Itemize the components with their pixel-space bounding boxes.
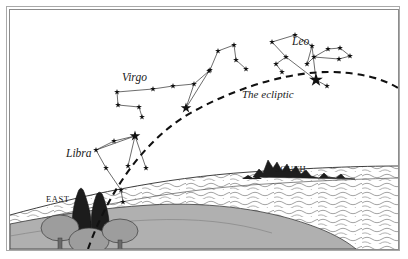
illustration-canvas: Virgo Leo Libra The ecliptic EAST SOUTH — [0, 0, 408, 259]
constellation-label-libra: Libra — [66, 148, 92, 160]
sky-illustration: Virgo Leo Libra The ecliptic EAST SOUTH — [10, 10, 398, 249]
constellation-label-leo: Leo — [292, 36, 309, 48]
ecliptic-label: The ecliptic — [242, 89, 294, 100]
compass-label-east: EAST — [46, 195, 70, 204]
constellation-label-virgo: Virgo — [122, 72, 147, 84]
sky-diagram-svg — [10, 10, 398, 249]
compass-label-south: SOUTH — [275, 165, 306, 174]
